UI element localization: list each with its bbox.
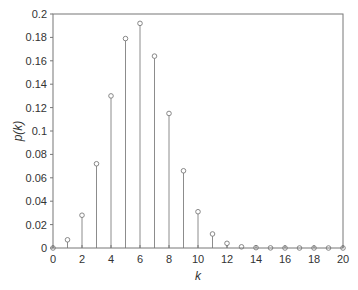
y-tick-label: 0.02 bbox=[26, 219, 47, 231]
x-axis-title: k bbox=[195, 269, 202, 283]
stem-marker bbox=[152, 54, 157, 59]
stem-marker bbox=[123, 36, 128, 41]
y-tick-label: 0.14 bbox=[26, 78, 47, 90]
y-tick-label: 0 bbox=[41, 242, 47, 254]
y-tick-label: 0.04 bbox=[26, 195, 47, 207]
x-tick-label: 2 bbox=[79, 253, 85, 265]
stem-marker bbox=[210, 232, 215, 237]
stem-marker bbox=[94, 161, 99, 166]
x-tick-label: 10 bbox=[192, 253, 204, 265]
x-tick-label: 0 bbox=[50, 253, 56, 265]
x-tick-label: 14 bbox=[250, 253, 262, 265]
y-axis-title: p(k) bbox=[11, 121, 25, 143]
stem-marker bbox=[225, 241, 230, 246]
y-tick-label: 0.18 bbox=[26, 31, 47, 43]
y-tick-label: 0.1 bbox=[32, 125, 47, 137]
y-tick-label: 0.2 bbox=[32, 8, 47, 20]
x-tick-label: 4 bbox=[108, 253, 114, 265]
y-tick-label: 0.06 bbox=[26, 172, 47, 184]
y-tick-label: 0.16 bbox=[26, 55, 47, 67]
y-tick-label: 0.12 bbox=[26, 102, 47, 114]
y-axis-ticks: 00.020.040.060.080.10.120.140.160.180.2 bbox=[26, 8, 53, 254]
x-tick-label: 18 bbox=[308, 253, 320, 265]
stem-marker bbox=[181, 168, 186, 173]
stem-marker bbox=[196, 209, 201, 214]
x-tick-label: 20 bbox=[337, 253, 349, 265]
x-tick-label: 6 bbox=[137, 253, 143, 265]
x-tick-label: 16 bbox=[279, 253, 291, 265]
stem-marker bbox=[167, 111, 172, 116]
stem-chart: 02468101214161820 00.020.040.060.080.10.… bbox=[0, 0, 358, 290]
data-stems bbox=[51, 21, 346, 250]
x-tick-label: 8 bbox=[166, 253, 172, 265]
y-tick-label: 0.08 bbox=[26, 148, 47, 160]
stem-marker bbox=[109, 94, 114, 99]
stem-marker bbox=[138, 21, 143, 26]
x-tick-label: 12 bbox=[221, 253, 233, 265]
stem-marker bbox=[65, 238, 70, 243]
stem-marker bbox=[80, 213, 85, 218]
